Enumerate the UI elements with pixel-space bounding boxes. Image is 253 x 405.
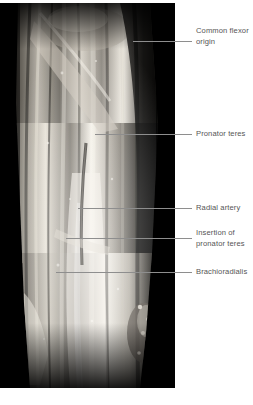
leader-line-insertion-of-pronator-teres	[66, 238, 192, 239]
label-radial-artery-line-1: Radial artery	[196, 203, 240, 214]
leader-line-radial-artery	[78, 208, 192, 209]
label-pronator-teres-line-1: Pronator teres	[196, 129, 246, 140]
label-brachioradialis: Brachioradialis	[196, 267, 247, 278]
label-pronator-teres: Pronator teres	[196, 129, 246, 140]
anatomical-figure: Common flexor origin Pronator teres Radi…	[0, 0, 253, 405]
label-insertion-of-pronator-teres: Insertion of pronator teres	[196, 228, 245, 249]
label-brachioradialis-line-1: Brachioradialis	[196, 267, 247, 278]
label-insertion-of-pronator-teres-line-1: Insertion of	[196, 228, 245, 239]
label-insertion-of-pronator-teres-line-2: pronator teres	[196, 239, 245, 250]
dissection-photograph	[0, 3, 175, 388]
label-common-flexor-origin-line-1: Common flexor	[196, 26, 249, 37]
leader-line-common-flexor-origin	[133, 41, 192, 42]
dissection-photograph-image	[0, 3, 175, 388]
label-common-flexor-origin: Common flexor origin	[196, 26, 249, 47]
leader-line-brachioradialis	[56, 272, 192, 273]
leader-line-pronator-teres	[95, 134, 192, 135]
label-common-flexor-origin-line-2: origin	[196, 37, 249, 48]
label-radial-artery: Radial artery	[196, 203, 240, 214]
